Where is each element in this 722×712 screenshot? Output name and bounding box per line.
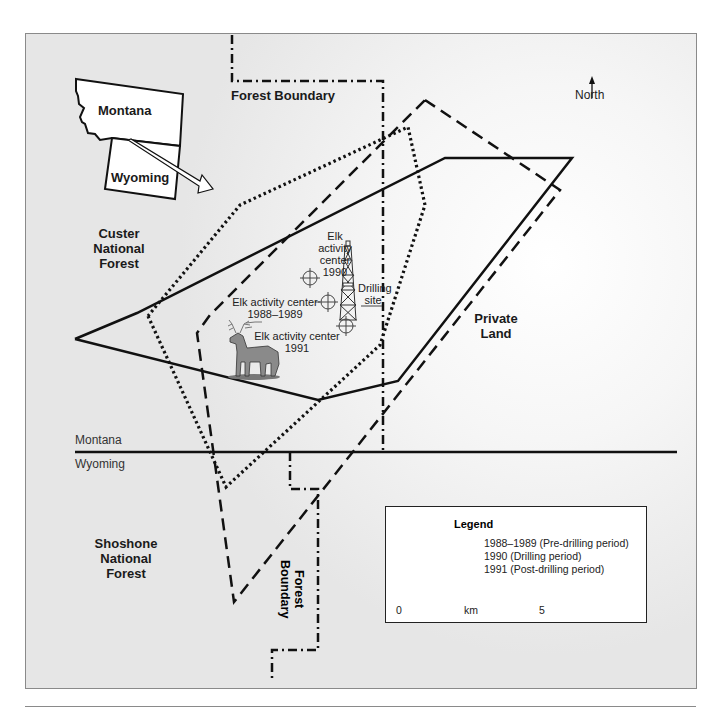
custer-national-forest-label: Custer National Forest xyxy=(84,226,154,271)
elk-1991-line-1: Elk activity center xyxy=(252,330,342,342)
elk-1990-line-1: Elk xyxy=(310,230,360,242)
crosshair-icon-1988-1989 xyxy=(318,292,338,312)
elk-1990-line-2: activity xyxy=(310,242,360,254)
shoshone-line-2: National xyxy=(86,551,166,566)
private-line-1: Private xyxy=(466,311,526,326)
forest-boundary-vertical-line-2: Boundary xyxy=(278,560,292,618)
custer-line-2: National xyxy=(84,241,154,256)
drilling-line-2: site xyxy=(358,294,388,306)
scale-start-label: 0 xyxy=(396,604,402,616)
inset-label-wyoming: Wyoming xyxy=(111,170,169,185)
elk-center-1990-label: Elk activity center 1990 xyxy=(310,230,360,278)
scale-unit-label: km xyxy=(464,604,478,616)
legend: Legend 1988–1989 (Pre-drilling period) 1… xyxy=(385,506,647,623)
legend-item-1991: 1991 (Post-drilling period) xyxy=(484,563,604,575)
elk-center-1991-label: Elk activity center 1991 xyxy=(252,330,342,354)
inset-label-montana: Montana xyxy=(98,103,151,118)
north-label: North xyxy=(575,88,604,102)
custer-line-1: Custer xyxy=(84,226,154,241)
drilling-line-1: Drilling xyxy=(358,282,388,294)
legend-item-1990: 1990 (Drilling period) xyxy=(484,550,581,562)
shoshone-national-forest-label: Shoshone National Forest xyxy=(86,536,166,581)
elk-1990-line-4: 1990 xyxy=(310,266,360,278)
private-line-2: Land xyxy=(466,326,526,341)
state-label-montana: Montana xyxy=(75,433,122,447)
elk-1988-line-2: 1988–1989 xyxy=(230,308,320,320)
drilling-site-label: Drilling site xyxy=(358,282,388,306)
elk-1990-line-3: center xyxy=(310,254,360,266)
shoshone-line-3: Forest xyxy=(86,566,166,581)
custer-line-3: Forest xyxy=(84,256,154,271)
legend-item-1988-1989: 1988–1989 (Pre-drilling period) xyxy=(484,537,629,549)
elk-1991-line-2: 1991 xyxy=(252,342,342,354)
private-land-label: Private Land xyxy=(466,311,526,341)
elk-center-1988-1989-label: Elk activity center 1988–1989 xyxy=(230,296,320,320)
shoshone-line-1: Shoshone xyxy=(86,536,166,551)
forest-boundary-vertical-line-1: Forest xyxy=(292,560,306,618)
forest-boundary-label: Forest Boundary xyxy=(231,88,335,103)
forest-boundary-vertical-label: Forest Boundary xyxy=(278,560,306,618)
state-label-wyoming: Wyoming xyxy=(75,457,125,471)
scale-end-label: 5 xyxy=(539,604,545,616)
elk-1988-line-1: Elk activity center xyxy=(230,296,320,308)
legend-title: Legend xyxy=(454,518,493,530)
